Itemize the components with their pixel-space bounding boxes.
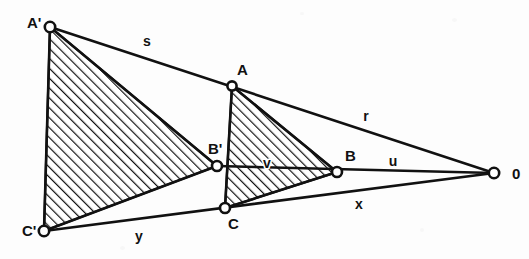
vertex-dot-b: [332, 167, 342, 177]
segment-label-y: y: [135, 228, 143, 244]
vertex-label-b-prime: B': [208, 140, 222, 157]
vertex-dot-a-prime: [45, 22, 55, 32]
vertex-label-b: B: [345, 147, 356, 164]
vertex-dot-c-prime: [39, 226, 49, 236]
vertex-dot-a: [227, 81, 236, 90]
vertex-label-origin: 0: [512, 165, 520, 182]
geometry-diagram: A' C' B' A C B 0 s r u v x y: [0, 0, 529, 259]
segment-label-r: r: [363, 108, 369, 124]
hatched-triangle-a-prime-b-prime-c-prime: [44, 27, 217, 231]
segment-label-s: s: [143, 33, 151, 49]
figure-root: A' C' B' A C B 0 s r u v x y: [0, 0, 529, 259]
vertex-label-a: A: [237, 61, 248, 78]
vertex-label-a-prime: A': [27, 14, 41, 31]
vertex-dot-b-prime: [212, 161, 222, 171]
segment-label-u: u: [389, 153, 398, 169]
vertex-label-c: C: [228, 215, 239, 232]
vertex-dot-c: [220, 203, 230, 213]
segment-label-v: v: [263, 155, 271, 171]
vertex-dot-origin: [489, 168, 499, 178]
segment-label-x: x: [355, 196, 363, 212]
vertex-label-c-prime: C': [22, 222, 36, 239]
